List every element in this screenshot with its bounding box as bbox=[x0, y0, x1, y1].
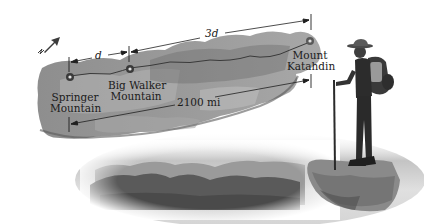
segment-3d-label: 3d bbox=[205, 28, 218, 39]
mount-katahdin-label: Mount Katahdin bbox=[287, 50, 333, 72]
total-distance-label: 2100 mi bbox=[177, 97, 220, 108]
big-walker-mountain-label: Big Walker Mountain bbox=[108, 80, 164, 102]
north-arrow-icon bbox=[38, 37, 60, 54]
segment-d-label: d bbox=[95, 50, 102, 61]
appalachian-trail-figure: d 3d 2100 mi Springer Mountain Big Walke… bbox=[0, 0, 424, 224]
springer-mountain-label: Springer Mountain bbox=[50, 92, 100, 114]
